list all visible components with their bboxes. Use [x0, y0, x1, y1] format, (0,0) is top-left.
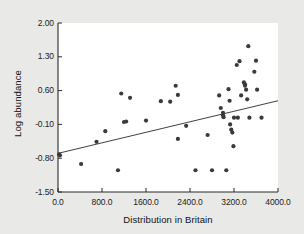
data-point	[210, 168, 214, 172]
data-point	[236, 116, 240, 120]
data-point	[224, 168, 228, 172]
data-point	[228, 99, 232, 103]
y-tick-label-0: -1.50	[16, 187, 54, 197]
x-tick-label-2: 1600.0	[123, 197, 169, 207]
data-point	[176, 93, 180, 97]
data-point	[144, 118, 148, 122]
data-point	[193, 168, 197, 172]
x-tick-label-5: 4000.0	[255, 197, 301, 207]
data-point	[252, 70, 256, 74]
data-point	[124, 119, 128, 123]
x-axis-title: Distribution in Britain	[58, 214, 278, 225]
data-point	[247, 116, 251, 120]
data-point	[232, 116, 236, 120]
data-point	[184, 124, 188, 128]
data-point	[235, 63, 239, 67]
data-point	[255, 88, 259, 92]
data-point	[176, 137, 180, 141]
data-point	[228, 122, 232, 126]
data-point	[231, 144, 235, 148]
data-point	[230, 131, 234, 135]
data-point	[128, 96, 132, 100]
data-point	[254, 59, 258, 63]
scatter-plot-figure: -1.50-0.80-0.100.601.302.00 0.0800.01600…	[0, 0, 304, 234]
data-point	[221, 115, 225, 119]
data-point	[168, 100, 172, 104]
x-tick-label-3: 2400.0	[167, 197, 213, 207]
data-point	[259, 116, 263, 120]
data-point	[159, 99, 163, 103]
data-point	[119, 91, 123, 95]
x-tick-label-4: 3200.0	[211, 197, 257, 207]
data-point	[94, 140, 98, 144]
data-point	[237, 59, 241, 63]
data-point	[116, 168, 120, 172]
data-point	[243, 84, 247, 88]
data-point	[245, 97, 249, 101]
data-point	[174, 84, 178, 88]
data-point	[58, 153, 62, 157]
data-point	[103, 129, 107, 133]
data-point	[219, 106, 223, 110]
data-point	[206, 133, 210, 137]
y-axis-title: Log abundance	[12, 49, 23, 159]
x-tick-label-0: 0.0	[35, 197, 81, 207]
plot-background	[58, 23, 278, 192]
data-point	[226, 87, 230, 91]
data-point	[246, 44, 250, 48]
data-point	[239, 93, 243, 97]
data-point	[217, 93, 221, 97]
y-tick-label-5: 2.00	[16, 18, 54, 28]
data-point	[79, 162, 83, 166]
x-tick-label-1: 800.0	[79, 197, 125, 207]
data-point	[244, 88, 248, 92]
